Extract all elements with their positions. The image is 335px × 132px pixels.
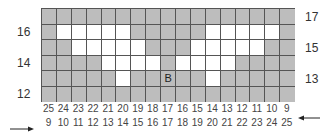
row-label-left: 16 [17,25,30,39]
grid-cell [176,25,191,41]
column-number: 15 [190,103,205,114]
grid-cell [146,87,161,103]
grid-cell [265,9,280,25]
grid-cell [206,56,221,72]
column-number: 15 [130,117,145,128]
column-number: 18 [145,103,160,114]
column-number: 24 [56,103,71,114]
grid-cell [191,25,206,41]
grid-cell [116,25,131,41]
grid-cell [87,56,102,72]
column-number: 9 [279,103,294,114]
column-number: 23 [71,103,86,114]
grid-cell [280,40,295,56]
grid-cell [221,87,236,103]
column-number: 22 [86,103,101,114]
grid-cell [146,25,161,41]
grid-cell [280,9,295,25]
grid-cell [102,56,117,72]
column-number: 25 [41,103,56,114]
grid-cell [72,56,87,72]
grid-cell [72,71,87,87]
column-axis-top: 252423222120191817161514131211109 [41,103,295,114]
grid-cell [72,9,87,25]
column-number: 19 [190,117,205,128]
grid-cell [176,40,191,56]
grid-cell [191,56,206,72]
column-number: 13 [101,117,116,128]
column-axis-bottom: 910111213141516171819202122232425 [41,117,295,128]
column-number: 23 [249,117,264,128]
grid-cell [116,40,131,56]
grid-cell [87,25,102,41]
grid-cell [87,71,102,87]
column-number: 21 [101,103,116,114]
grid-cell [116,56,131,72]
row-label-left: 12 [17,87,30,101]
grid-cell [146,71,161,87]
grid-cell [131,9,146,25]
grid-cell [161,56,176,72]
grid-cell [102,9,117,25]
grid-cell [191,40,206,56]
grid-cell [131,56,146,72]
grid-cell [176,9,191,25]
grid-cell [176,71,191,87]
grid-cell [265,25,280,41]
grid-cell [87,87,102,103]
column-number: 17 [160,117,175,128]
grid-cell [250,9,265,25]
grid-cell [131,71,146,87]
column-number: 9 [41,117,56,128]
left-arrow-icon [298,108,320,116]
column-number: 10 [264,103,279,114]
grid-cell [102,25,117,41]
grid-cell [206,25,221,41]
grid-cell [250,25,265,41]
grid-cell [161,25,176,41]
grid-cell [250,40,265,56]
column-number: 12 [235,103,250,114]
grid-cell [265,71,280,87]
grid-cell [250,87,265,103]
column-number: 24 [264,117,279,128]
grid-cell [57,71,72,87]
grid-cell [116,87,131,103]
grid-cell [236,25,251,41]
column-number: 14 [115,117,130,128]
grid-cell [265,87,280,103]
grid-cell [221,40,236,56]
grid-cell [42,25,57,41]
marker-label: B [164,72,171,84]
grid-cell [146,9,161,25]
grid-cell [250,56,265,72]
grid-cell [57,25,72,41]
grid-cell [102,87,117,103]
grid-cell: B [161,71,176,87]
grid-cell [236,40,251,56]
grid-cell [280,56,295,72]
grid-cell [236,87,251,103]
row-label-right: 17 [305,10,318,24]
grid-cell [72,40,87,56]
column-number: 10 [56,117,71,128]
grid-cell [236,71,251,87]
grid-cell [116,9,131,25]
grid-cell [236,9,251,25]
column-number: 22 [235,117,250,128]
row-label-right: 15 [305,41,318,55]
column-number: 16 [175,103,190,114]
grid-cell [87,9,102,25]
grid-cell [42,87,57,103]
grid-cell [146,56,161,72]
grid-cell [221,25,236,41]
grid-cell [57,40,72,56]
grid-cell [265,40,280,56]
column-number: 11 [71,117,86,128]
grid-cell [280,25,295,41]
grid-cell [72,25,87,41]
column-number: 20 [115,103,130,114]
column-number: 21 [220,117,235,128]
grid-cell [102,71,117,87]
grid-cell [161,9,176,25]
